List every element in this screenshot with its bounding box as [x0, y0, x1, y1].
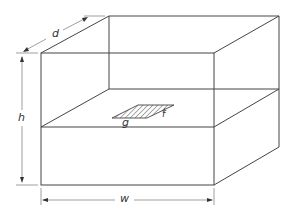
slit-length-label: g	[120, 117, 131, 128]
box-diagram	[0, 0, 291, 217]
top-right-diagonal	[214, 16, 279, 53]
mid-right-diagonal	[214, 89, 279, 127]
w-arrow-left	[42, 198, 48, 202]
box-outline	[41, 16, 279, 185]
dimension-lines	[16, 16, 214, 205]
d-arrow-top	[82, 17, 88, 22]
w-arrow-right	[207, 198, 213, 202]
h-arrow-bottom	[20, 177, 24, 183]
width-label: w	[118, 193, 131, 204]
h-arrow-top	[20, 56, 24, 62]
mid-left-diagonal	[41, 89, 109, 127]
bottom-right-diagonal	[214, 147, 279, 185]
d-arrow-bottom	[23, 47, 29, 52]
slit-width-label: f	[160, 110, 167, 119]
depth-label: d	[50, 28, 61, 39]
height-label: h	[16, 112, 27, 123]
